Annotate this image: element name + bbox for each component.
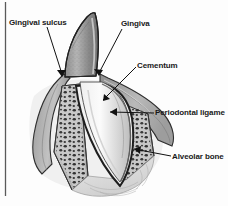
- label-alveolar-bone: Alveolar bone: [172, 152, 224, 161]
- tooth-anatomy-figure: Gingival sulcus Gingiva Cementum Periodo…: [0, 0, 228, 206]
- label-gingiva: Gingiva: [121, 19, 150, 28]
- label-periodontal-ligament: Periodontal ligame: [155, 108, 225, 117]
- label-cementum: Cementum: [137, 61, 178, 70]
- label-gingival-sulcus: Gingival sulcus: [9, 18, 67, 27]
- tooth-illustration: [0, 0, 228, 206]
